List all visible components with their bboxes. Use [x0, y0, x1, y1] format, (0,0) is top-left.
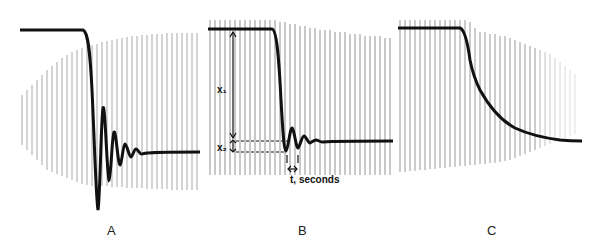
time-label: t, seconds [290, 174, 339, 185]
step-response-figure [0, 0, 602, 250]
panel-b-label: B [298, 223, 307, 238]
x1-label: x₁ [217, 84, 227, 95]
panel-c-grid [400, 20, 575, 172]
panel-a-label: A [107, 223, 116, 238]
x2-label: x₂ [217, 142, 227, 153]
panel-c-label: C [487, 223, 496, 238]
